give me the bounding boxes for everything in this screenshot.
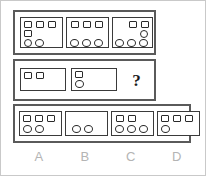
circle-shape bbox=[139, 125, 148, 133]
premise-panel-3 bbox=[112, 17, 153, 48]
circle-shape bbox=[35, 39, 44, 47]
circle-shape bbox=[72, 125, 81, 133]
square-shape bbox=[24, 21, 32, 28]
option-label-c: C bbox=[121, 149, 141, 164]
square-shape bbox=[24, 72, 32, 79]
square-shape bbox=[129, 21, 137, 28]
circle-shape bbox=[94, 39, 103, 47]
square-shape bbox=[35, 115, 43, 122]
square-shape bbox=[161, 115, 169, 122]
square-shape bbox=[24, 30, 32, 37]
option-label-b: B bbox=[75, 149, 95, 164]
option-panel-b[interactable] bbox=[65, 111, 108, 136]
circle-shape bbox=[23, 125, 32, 133]
options-row bbox=[13, 104, 191, 143]
square-shape bbox=[141, 21, 149, 28]
question-mark-panel: ? bbox=[121, 66, 152, 94]
square-shape bbox=[36, 21, 44, 28]
circle-shape bbox=[140, 30, 148, 38]
square-shape bbox=[71, 21, 79, 28]
circle-shape bbox=[70, 39, 79, 47]
circle-shape bbox=[161, 125, 170, 133]
premise-panel-1 bbox=[20, 17, 63, 48]
premise-panel-2 bbox=[66, 17, 109, 48]
square-shape bbox=[83, 21, 91, 28]
circle-shape bbox=[115, 125, 124, 133]
square-shape bbox=[128, 115, 136, 122]
question-row: ? bbox=[13, 59, 156, 101]
square-shape bbox=[23, 115, 31, 122]
puzzle-container: ? bbox=[0, 0, 206, 176]
circle-shape bbox=[127, 39, 136, 47]
option-panel-c[interactable] bbox=[111, 111, 154, 136]
square-shape bbox=[47, 115, 55, 122]
square-shape bbox=[185, 115, 193, 122]
question-panel-1 bbox=[20, 68, 66, 91]
option-panel-d[interactable] bbox=[157, 111, 200, 136]
square-shape bbox=[48, 21, 56, 28]
square-shape bbox=[173, 115, 181, 122]
square-shape bbox=[116, 115, 124, 122]
circle-shape bbox=[82, 39, 91, 47]
option-panel-a[interactable] bbox=[19, 111, 62, 136]
circle-shape bbox=[84, 125, 93, 133]
option-label-a: A bbox=[29, 149, 49, 164]
option-label-d: D bbox=[167, 149, 187, 164]
circle-shape bbox=[139, 39, 148, 47]
question-mark: ? bbox=[132, 72, 141, 89]
circle-shape bbox=[35, 125, 44, 133]
circle-shape bbox=[127, 125, 136, 133]
square-shape bbox=[36, 72, 44, 79]
square-shape bbox=[75, 71, 83, 78]
circle-shape bbox=[115, 39, 124, 47]
circle-shape bbox=[75, 80, 84, 88]
square-shape bbox=[95, 21, 103, 28]
circle-shape bbox=[24, 39, 32, 47]
premise-row bbox=[13, 10, 156, 55]
question-panel-2 bbox=[71, 68, 117, 91]
